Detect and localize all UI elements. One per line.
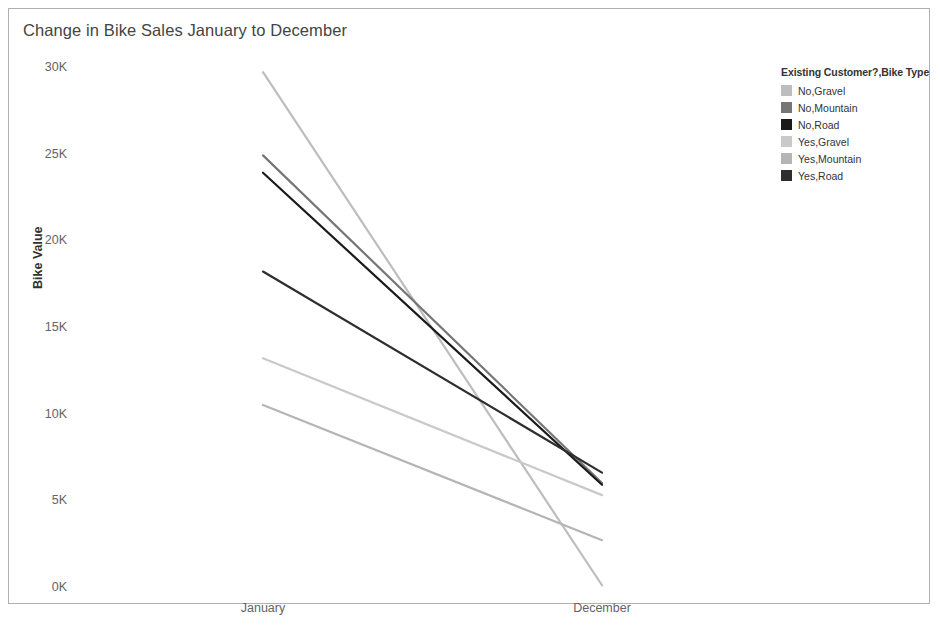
x-axis-tick: January	[241, 601, 285, 615]
legend-item-label: No,Road	[798, 119, 839, 131]
legend: Existing Customer?,Bike Type No,GravelNo…	[781, 66, 931, 184]
y-axis-tick: 25K	[45, 147, 67, 161]
line-series[interactable]	[263, 358, 602, 495]
line-series[interactable]	[263, 405, 602, 540]
legend-item[interactable]: No,Gravel	[781, 82, 931, 99]
line-series-group	[73, 67, 733, 587]
legend-title: Existing Customer?,Bike Type	[781, 66, 931, 78]
line-series[interactable]	[263, 173, 602, 485]
chart-container: Change in Bike Sales January to December…	[8, 8, 930, 604]
legend-color-swatch-icon	[781, 85, 792, 96]
y-axis-tick: 20K	[45, 233, 67, 247]
legend-items: No,GravelNo,MountainNo,RoadYes,GravelYes…	[781, 82, 931, 184]
legend-item[interactable]: No,Road	[781, 116, 931, 133]
legend-item[interactable]: No,Mountain	[781, 99, 931, 116]
chart-title: Change in Bike Sales January to December	[23, 21, 347, 40]
legend-color-swatch-icon	[781, 102, 792, 113]
legend-item-label: No,Mountain	[798, 102, 858, 114]
legend-item[interactable]: Yes,Gravel	[781, 133, 931, 150]
y-axis-tick: 30K	[45, 60, 67, 74]
legend-item[interactable]: Yes,Road	[781, 167, 931, 184]
line-series[interactable]	[263, 155, 602, 483]
legend-color-swatch-icon	[781, 119, 792, 130]
y-axis-tick: 5K	[52, 493, 67, 507]
legend-item[interactable]: Yes,Mountain	[781, 150, 931, 167]
plot-area	[73, 67, 733, 587]
legend-item-label: Yes,Gravel	[798, 136, 849, 148]
y-axis-tick: 10K	[45, 407, 67, 421]
legend-color-swatch-icon	[781, 136, 792, 147]
x-axis-tick: December	[573, 601, 631, 615]
legend-color-swatch-icon	[781, 153, 792, 164]
y-axis-tick: 0K	[52, 580, 67, 594]
y-axis-tick: 15K	[45, 320, 67, 334]
y-axis-tick-labels: 0K5K10K15K20K25K30K	[9, 67, 67, 587]
line-series[interactable]	[263, 272, 602, 473]
legend-item-label: No,Gravel	[798, 85, 845, 97]
x-axis-tick-labels: JanuaryDecember	[73, 601, 733, 621]
legend-item-label: Yes,Road	[798, 170, 843, 182]
legend-color-swatch-icon	[781, 170, 792, 181]
legend-item-label: Yes,Mountain	[798, 153, 861, 165]
